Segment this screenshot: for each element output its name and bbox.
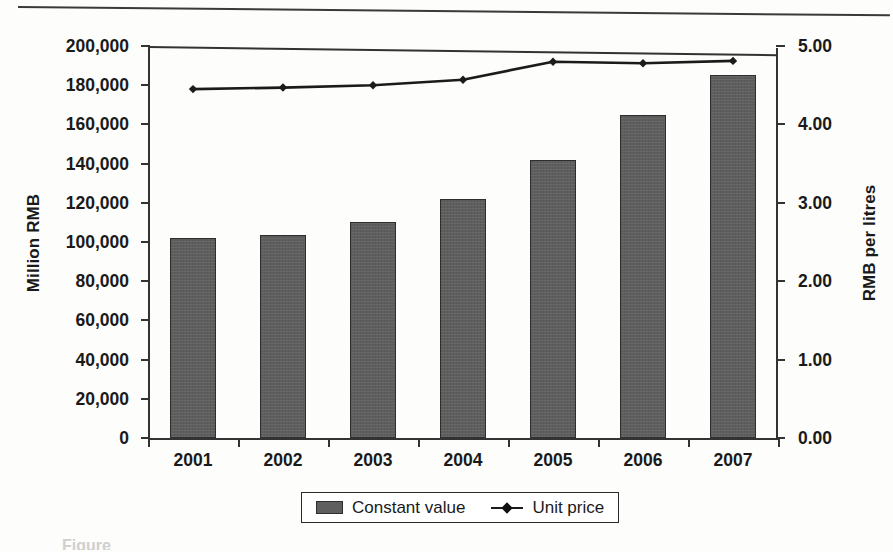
- x-tick-label: 2001: [174, 450, 213, 471]
- y-tick-label-left: 160,000: [66, 114, 129, 135]
- x-tick-label: 2003: [354, 450, 393, 471]
- y-axis-title-left: Million RMB: [24, 148, 44, 338]
- y-tick-label-left: 80,000: [75, 271, 129, 292]
- scan-page-edge-line: [18, 6, 890, 16]
- x-tick-label: 2002: [264, 450, 303, 471]
- chart-page: Million RMB RMB per litres 020,00040,000…: [0, 0, 893, 552]
- y-tick-label-right: 0.00: [798, 428, 832, 449]
- line-marker: [279, 83, 287, 91]
- y-tick-label-left: 20,000: [75, 388, 129, 409]
- y-tick-label-right: 5.00: [798, 36, 832, 57]
- x-tick-label: 2006: [624, 450, 663, 471]
- plot-area: 020,00040,00060,00080,000100,000120,0001…: [148, 46, 778, 440]
- line-marker: [639, 59, 647, 67]
- line-marker: [459, 76, 467, 84]
- y-tick-label-left: 140,000: [66, 153, 129, 174]
- line-marker: [549, 57, 557, 65]
- legend-item-constant-value[interactable]: Constant value: [316, 498, 465, 518]
- line-diamond-icon: [491, 502, 523, 514]
- y-tick-label-left: 40,000: [75, 349, 129, 370]
- line-marker: [729, 57, 737, 65]
- y-tick-label-left: 60,000: [75, 310, 129, 331]
- y-tick-label-right: 3.00: [798, 192, 832, 213]
- y-tick-label-left: 200,000: [66, 36, 129, 57]
- x-tick-label: 2005: [534, 450, 573, 471]
- x-tick-label: 2004: [444, 450, 483, 471]
- y-tick-label-left: 120,000: [66, 192, 129, 213]
- y-tick-label-right: 2.00: [798, 271, 832, 292]
- line-series-unit-price: [148, 46, 778, 440]
- legend-label-constant-value: Constant value: [352, 498, 465, 518]
- y-tick-label-left: 180,000: [66, 75, 129, 96]
- unit-price-line: [193, 61, 733, 89]
- x-tick-label: 2007: [714, 450, 753, 471]
- legend-label-unit-price: Unit price: [532, 498, 604, 518]
- y-tick-label-right: 1.00: [798, 349, 832, 370]
- legend-item-unit-price[interactable]: Unit price: [491, 498, 604, 518]
- y-tick-label-right: 4.00: [798, 114, 832, 135]
- chart-legend: Constant value Unit price: [301, 492, 619, 523]
- bar-swatch-icon: [316, 501, 343, 514]
- x-tick: [778, 438, 780, 447]
- y-tick-label-left: 0: [119, 428, 129, 449]
- line-marker: [369, 81, 377, 89]
- y-tick-label-left: 100,000: [66, 232, 129, 253]
- line-marker: [189, 85, 197, 93]
- figure-caption: Figure: [62, 537, 111, 550]
- y-axis-title-right: RMB per litres: [860, 138, 880, 348]
